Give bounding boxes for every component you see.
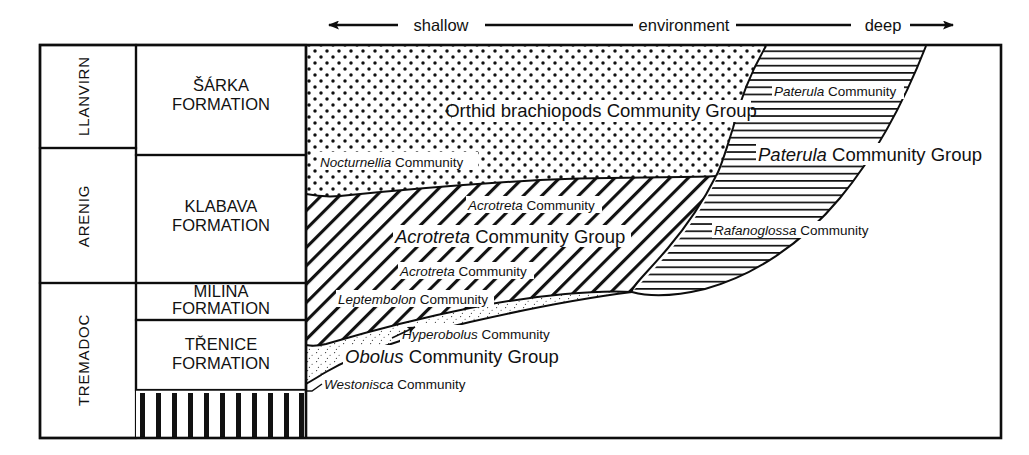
axis-label-deep: deep [865, 16, 902, 34]
stratigraphic-table: LLANVIRN ARENIG TREMADOC ŠÁRKA FORMATION… [40, 45, 306, 438]
community-label-hyperobolus: Hyperobolus Community [402, 327, 550, 342]
group-label-obolus: Obolus Community Group [345, 346, 559, 367]
formation-label-sarka-line1: ŠÁRKA [193, 76, 249, 94]
community-label-paterula: Paterula Community [774, 84, 897, 99]
group-rest-paterula: Community Group [827, 144, 982, 165]
community-rest-rafanoglossa: Community [797, 223, 869, 238]
community-rest-westonisca: Community [394, 377, 466, 392]
group-genus-obolus: Obolus [345, 346, 404, 367]
community-label-westonisca: Westonisca Community [324, 377, 466, 392]
community-label-nocturnellia: Nocturnellia Community [320, 155, 464, 170]
environment-axis: shallow environment deep [329, 16, 953, 34]
community-rest-hyperobolus: Community [478, 327, 550, 342]
group-rest-obolus: Community Group [404, 346, 559, 367]
community-genus-paterula: Paterula [774, 84, 825, 99]
community-genus-leptembolon: Leptembolon [338, 292, 416, 307]
stage-label-llanvirn: LLANVIRN [75, 56, 92, 136]
community-genus-nocturnellia: Nocturnellia [320, 155, 392, 170]
figure-root: shallow environment deep Ort [0, 0, 1029, 455]
group-genus-acrotreta: Acrotreta [394, 226, 470, 247]
group-label-orthid-brachiopods: Orthid brachiopods Community Group [445, 100, 757, 121]
formation-label-milina-line1: MÍLINA [193, 282, 248, 300]
group-rest-acrotreta: Community Group [470, 226, 625, 247]
community-rest-leptembolon: Community [416, 292, 488, 307]
stratigraphic-diagram: shallow environment deep Ort [0, 0, 1029, 455]
community-genus-acrotreta-lower: Acrotreta [399, 264, 455, 279]
formation-label-trenice-line2: FORMATION [172, 354, 270, 372]
community-rest-acrotreta-upper: Community [523, 198, 595, 213]
stage-label-arenig: ARENIG [75, 185, 92, 247]
formation-label-milina-line2: FORMATION [172, 299, 270, 317]
community-genus-acrotreta-upper: Acrotreta [467, 198, 523, 213]
community-label-rafanoglossa: Rafanoglossa Community [714, 223, 869, 238]
community-label-acrotreta-lower: Acrotreta Community [399, 264, 527, 279]
community-genus-westonisca: Westonisca [324, 377, 394, 392]
community-label-acrotreta-upper: Acrotreta Community [467, 198, 595, 213]
group-genus-paterula: Paterula [758, 144, 827, 165]
stage-label-tremadoc: TREMADOC [75, 314, 92, 406]
formation-label-sarka-line2: FORMATION [172, 95, 270, 113]
group-label-acrotreta: Acrotreta Community Group [394, 226, 625, 247]
community-genus-rafanoglossa: Rafanoglossa [714, 223, 797, 238]
formation-label-klabava-line2: FORMATION [172, 216, 270, 234]
axis-label-environment: environment [639, 16, 730, 34]
formation-label-trenice-line1: TŘENICE [185, 335, 257, 353]
formation-label-klabava-line1: KLABAVA [185, 197, 258, 215]
group-label-paterula: Paterula Community Group [758, 144, 982, 165]
basement-vertical-bars [136, 390, 306, 438]
community-genus-hyperobolus: Hyperobolus [402, 327, 478, 342]
axis-label-shallow: shallow [413, 16, 468, 34]
community-label-leptembolon: Leptembolon Community [338, 292, 488, 307]
community-rest-paterula: Community [824, 84, 896, 99]
community-rest-acrotreta-lower: Community [455, 264, 527, 279]
community-rest-nocturnellia: Community [391, 155, 463, 170]
